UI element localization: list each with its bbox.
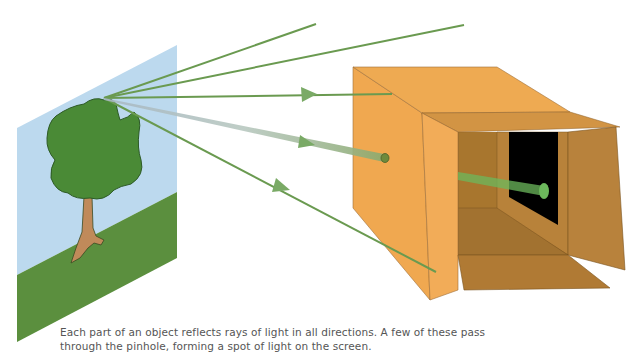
- caption-line-1: Each part of an object reflects rays of …: [60, 325, 580, 339]
- box-right-flap: [568, 127, 625, 270]
- arrow-icon: [301, 87, 317, 102]
- arrow-icon: [272, 178, 290, 192]
- caption: Each part of an object reflects rays of …: [60, 325, 580, 353]
- pinhole-camera-diagram: [0, 0, 642, 363]
- pinhole: [381, 154, 389, 163]
- light-spot: [539, 183, 549, 199]
- caption-line-2: through the pinhole, forming a spot of l…: [60, 339, 580, 353]
